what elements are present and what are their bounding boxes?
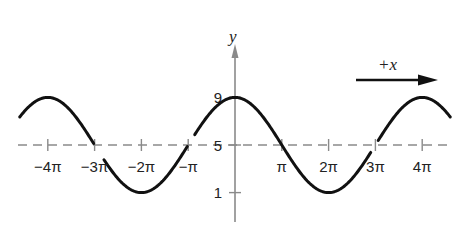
y-tick-label: 5 [214,137,222,154]
y-axis-label: y [227,27,237,46]
x-tick-label: −2π [128,158,155,175]
x-axis-tick-labels: −4π−3π−2π−ππ2π3π4π [34,158,431,175]
sinusoid-chart: y 951 −4π−3π−2π−ππ2π3π4π +x [0,0,470,228]
x-tick-label: 2π [319,158,338,175]
y-tick-label: 1 [214,184,222,201]
x-tick-label: π [277,158,287,175]
direction-arrow-icon [418,75,438,86]
direction-label: +x [378,55,397,74]
x-tick-label: −3π [81,158,108,175]
x-tick-label: −4π [34,158,61,175]
x-tick-label: 4π [413,158,432,175]
x-tick-label: −π [179,158,198,175]
x-tick-label: 3π [366,158,385,175]
y-axis-arrowhead-icon [232,44,239,58]
